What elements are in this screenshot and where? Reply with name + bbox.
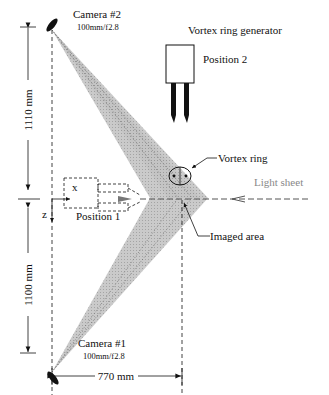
generator-body <box>166 45 194 83</box>
light-sheet-label: Light sheet <box>254 176 303 188</box>
z-axis-label: z <box>42 208 47 220</box>
setup-diagram: Camera #2 100mm/f2.8 Camera #1 100mm/f2.… <box>0 0 329 395</box>
dim-upper-vertical: 1110 mm <box>22 89 34 130</box>
position2-label: Position 2 <box>203 53 247 65</box>
camera2-lens: 100mm/f2.8 <box>77 22 119 32</box>
camera1-lens: 100mm/f2.8 <box>83 351 125 361</box>
dim-lower-vertical: 1100 mm <box>22 264 34 306</box>
position1-label: Position 1 <box>76 210 120 222</box>
x-axis-label: x <box>72 181 78 193</box>
generator-label: Vortex ring generator <box>188 24 282 36</box>
camera1-icon <box>46 370 61 386</box>
camera1-view-cone <box>52 198 208 372</box>
vortex-ring-label: Vortex ring <box>218 152 268 164</box>
camera2-label: Camera #2 <box>73 8 121 20</box>
dim-horizontal: 770 mm <box>98 370 135 382</box>
camera1-label: Camera #1 <box>78 337 126 349</box>
imaged-area-label: Imaged area <box>210 230 264 242</box>
